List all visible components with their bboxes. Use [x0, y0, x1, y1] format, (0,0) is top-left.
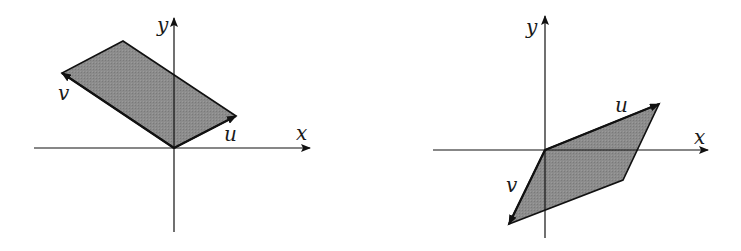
parallelogram-diagram: x y u v x y u v — [0, 0, 741, 251]
left-x-label: x — [296, 121, 307, 145]
left-y-label: y — [156, 13, 169, 37]
left-u-label: u — [224, 122, 237, 146]
right-panel: x y u v — [433, 15, 708, 238]
right-u-label: u — [615, 93, 628, 117]
right-y-label: y — [525, 15, 538, 39]
right-x-label: x — [694, 125, 705, 149]
right-parallelogram — [509, 104, 659, 224]
right-v-label: v — [506, 173, 518, 197]
left-v-label: v — [58, 81, 70, 105]
left-panel: x y u v — [34, 13, 310, 232]
